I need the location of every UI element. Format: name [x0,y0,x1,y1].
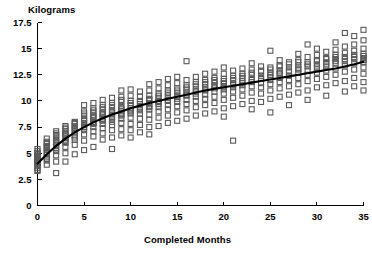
data-point-marker [352,34,357,39]
data-point-marker [333,81,338,86]
x-tick-label-group: 05101520253035 [35,211,370,222]
data-point-marker [249,61,254,66]
data-point-marker [361,71,366,76]
data-point-marker [361,65,366,70]
data-point-marker [342,30,347,35]
data-point-marker [175,81,180,86]
data-point-marker [268,110,273,115]
data-point-marker [165,76,170,81]
data-point-marker [119,88,124,93]
data-point-marker [128,128,133,133]
data-point-marker [128,93,133,98]
data-point-marker [91,101,96,106]
data-point-marker [110,135,115,140]
data-point-marker [342,89,347,94]
data-point-marker [63,159,68,164]
data-point-marker [147,88,152,93]
data-point-marker [63,124,68,129]
y-tick-label: 12.5 [13,69,32,80]
data-point-marker [212,69,217,74]
data-point-marker [333,47,338,52]
data-point-marker [314,46,319,51]
data-point-marker [165,120,170,125]
data-point-marker [82,103,87,108]
data-point-marker [165,113,170,118]
data-point-marker [305,97,310,102]
data-point-marker [249,107,254,112]
data-point-marker [91,134,96,139]
data-point-marker [72,142,77,147]
data-point-marker [231,68,236,73]
data-point-marker [342,69,347,74]
data-point-marker [156,86,161,91]
data-point-marker [231,95,236,100]
data-point-marker [221,97,226,102]
data-point-marker [268,48,273,53]
data-point-marker [249,98,254,103]
data-point-marker [147,112,152,117]
data-point-marker [100,97,105,102]
data-point-marker [128,121,133,126]
data-point-marker [82,148,87,153]
y-tick-mark-group [38,23,42,206]
x-axis-title: Completed Months [144,234,231,245]
data-point-marker [324,83,329,88]
data-point-marker [296,75,301,80]
data-point-marker [119,127,124,132]
data-point-marker [54,132,59,137]
data-point-marker [286,92,291,97]
data-point-marker [212,109,217,114]
x-tick-label: 35 [358,211,369,222]
chart-figure: Kilograms 02.557.51012.51517.5 051015202… [0,0,372,255]
data-point-marker [110,122,115,127]
data-point-marker [91,144,96,149]
data-point-marker [352,84,357,89]
x-tick-label: 15 [172,211,183,222]
data-point-marker [193,113,198,118]
data-point-marker [212,101,217,106]
data-point-marker [249,90,254,95]
data-point-marker [119,133,124,138]
data-point-marker [193,105,198,110]
data-point-marker [100,131,105,136]
x-tick-mark-group [38,202,364,206]
data-point-marker [305,79,310,84]
data-point-marker [193,74,198,79]
data-point-marker [249,67,254,72]
data-point-marker [231,104,236,109]
data-point-marker [128,87,133,92]
data-point-marker [82,138,87,143]
data-point-marker [110,95,115,100]
y-tick-label: 15 [21,43,32,54]
data-point-marker [231,138,236,143]
data-point-marker [259,99,264,104]
data-point-marker [110,128,115,133]
y-tick-label-group: 02.557.51012.51517.5 [13,17,32,211]
scatter-plot-canvas: 02.557.51012.51517.5 05101520253035 [0,0,372,255]
data-point-marker [184,78,189,83]
data-point-marker [324,49,329,54]
data-point-marker [296,51,301,56]
data-point-marker [314,76,319,81]
data-point-marker [110,147,115,152]
data-point-group [35,27,366,175]
data-point-marker [147,82,152,87]
data-point-marker [342,79,347,84]
data-point-marker [128,135,133,140]
data-point-marker [137,122,142,127]
data-point-marker [147,125,152,130]
data-point-marker [119,94,124,99]
data-point-marker [137,130,142,135]
y-tick-label: 5 [26,148,32,159]
data-point-marker [361,88,366,93]
data-point-marker [352,67,357,72]
data-point-marker [184,59,189,64]
data-point-marker [203,103,208,108]
x-tick-label: 5 [81,211,87,222]
data-point-marker [137,116,142,121]
data-point-marker [324,93,329,98]
data-point-marker [277,86,282,91]
data-point-marker [63,151,68,156]
data-point-marker [305,88,310,93]
y-tick-label: 0 [26,200,31,211]
